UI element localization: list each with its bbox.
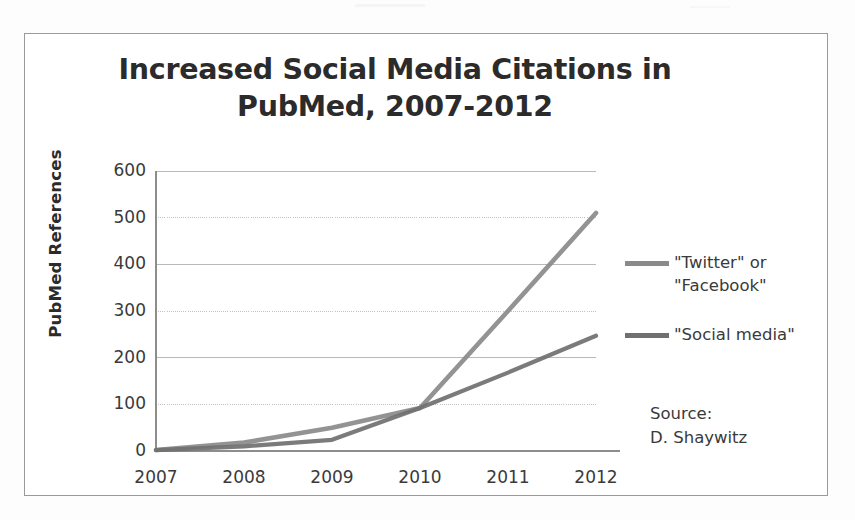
legend-item-social-media[interactable]: "Social media" [625, 324, 825, 347]
scan-artifact [355, 4, 425, 7]
legend-label-social-media: "Social media" [674, 324, 795, 347]
source-name: D. Shaywitz [650, 426, 747, 450]
chart-legend: "Twitter" or "Facebook" "Social media" [625, 252, 825, 372]
legend-swatch-twitter-facebook [625, 261, 669, 266]
legend-swatch-social-media [625, 333, 669, 338]
plot-area-wrapper: PubMed References 0100200300400500600 20… [25, 34, 829, 497]
legend-item-twitter-facebook[interactable]: "Twitter" or "Facebook" [625, 252, 825, 298]
legend-label-twitter-facebook: "Twitter" or "Facebook" [674, 252, 767, 298]
source-label: Source: [650, 402, 747, 426]
chart-container: Increased Social Media Citations in PubM… [24, 33, 828, 496]
series-line-0 [156, 213, 596, 450]
series-line-1 [156, 336, 596, 450]
scanned-page: Increased Social Media Citations in PubM… [0, 0, 855, 520]
scan-artifact [690, 6, 730, 8]
source-attribution: Source: D. Shaywitz [650, 402, 747, 450]
